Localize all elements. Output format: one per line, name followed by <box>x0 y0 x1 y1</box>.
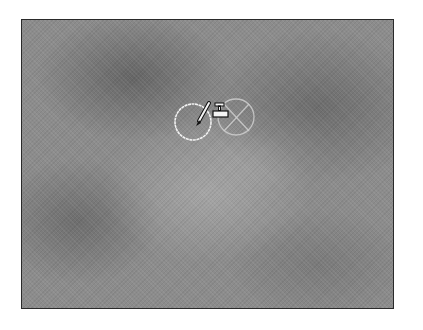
image-canvas[interactable] <box>21 19 394 309</box>
